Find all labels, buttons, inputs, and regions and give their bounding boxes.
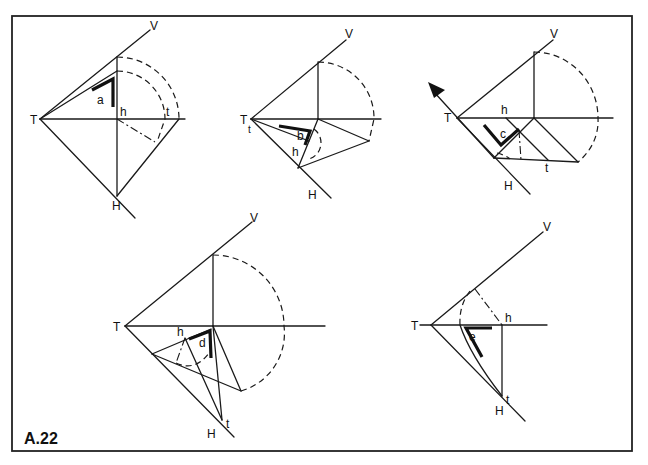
label-h: h: [501, 103, 508, 117]
label-t: t: [226, 417, 230, 431]
figure-frame: [12, 16, 632, 451]
label-H: H: [504, 179, 513, 193]
label-V: V: [543, 220, 551, 234]
panel-c: c T V h t H: [428, 27, 613, 194]
label-H: H: [207, 427, 216, 441]
label-T: T: [444, 111, 452, 125]
label-V: V: [550, 27, 558, 41]
angle-label-e: e: [469, 330, 476, 344]
label-t: t: [545, 161, 549, 175]
label-h: h: [505, 311, 512, 325]
label-T: T: [113, 320, 121, 334]
panel-a: a T V h t H: [30, 19, 185, 218]
label-V: V: [150, 19, 158, 33]
angle-label-b: b: [297, 129, 304, 143]
diagram-canvas: a T V h t H b T t V h H: [0, 0, 648, 465]
label-h: h: [177, 325, 184, 339]
label-t: t: [248, 124, 251, 135]
label-h: h: [292, 145, 299, 159]
label-H: H: [112, 199, 121, 213]
angle-label-a: a: [97, 93, 104, 107]
label-T: T: [411, 319, 419, 333]
label-V: V: [250, 211, 258, 225]
label-V: V: [345, 27, 353, 41]
label-T: T: [240, 113, 248, 127]
panel-d: d T V h t H: [113, 211, 325, 441]
label-t: t: [166, 105, 170, 119]
panel-e: e T V h t H: [411, 220, 551, 421]
label-h: h: [120, 105, 127, 119]
label-H: H: [495, 404, 504, 418]
angle-label-d: d: [199, 336, 206, 350]
panel-b: b T t V h H: [240, 27, 381, 202]
angle-label-c: c: [500, 127, 506, 141]
label-H: H: [308, 188, 317, 202]
figure-title: A.22: [24, 430, 58, 447]
arrow-up-left-icon: [428, 82, 445, 98]
diagram-stage: a T V h t H b T t V h H: [0, 0, 648, 465]
label-T: T: [30, 113, 38, 127]
